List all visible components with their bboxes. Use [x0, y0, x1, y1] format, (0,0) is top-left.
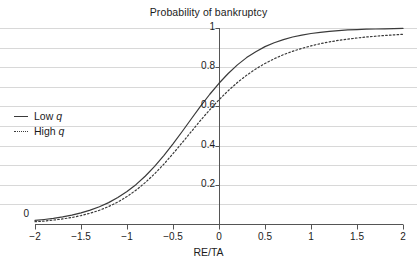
legend-label-high-q-text: High: [34, 125, 59, 137]
y-tick-label: 1: [193, 21, 215, 32]
legend-line-dotted-icon: [14, 126, 28, 136]
y-tick-label: 0: [13, 208, 29, 219]
y-tick-label: 0.8: [193, 60, 215, 71]
legend-label-high-q-symbol: q: [59, 125, 65, 137]
y-tick-label: 0.2: [193, 178, 215, 189]
chart-legend: Low q High q: [14, 108, 64, 138]
legend-label-low-q: Low q: [34, 110, 62, 122]
chart-figure: Probability of bankruptcy 00.20.40.60.81…: [0, 0, 417, 268]
legend-label-low-q-symbol: q: [56, 110, 62, 122]
legend-item-low-q: Low q: [14, 108, 64, 123]
x-tick-label: 2: [387, 231, 417, 242]
x-tick-label: −0.5: [157, 231, 189, 242]
x-tick-label: −1.5: [65, 231, 97, 242]
x-tick-label: 1.5: [341, 231, 373, 242]
x-axis-label: RE/TA: [0, 246, 417, 258]
x-tick-label: 0: [203, 231, 235, 242]
x-tick-label: −2: [19, 231, 51, 242]
x-tick-label: 1: [295, 231, 327, 242]
legend-label-low-q-text: Low: [34, 110, 56, 122]
x-tick-label: −1: [111, 231, 143, 242]
legend-label-high-q: High q: [34, 125, 64, 137]
legend-item-high-q: High q: [14, 123, 64, 138]
legend-line-solid-icon: [14, 111, 28, 121]
y-tick-label: 0.4: [193, 139, 215, 150]
x-tick-label: 0.5: [249, 231, 281, 242]
y-tick-label: 0.6: [193, 99, 215, 110]
